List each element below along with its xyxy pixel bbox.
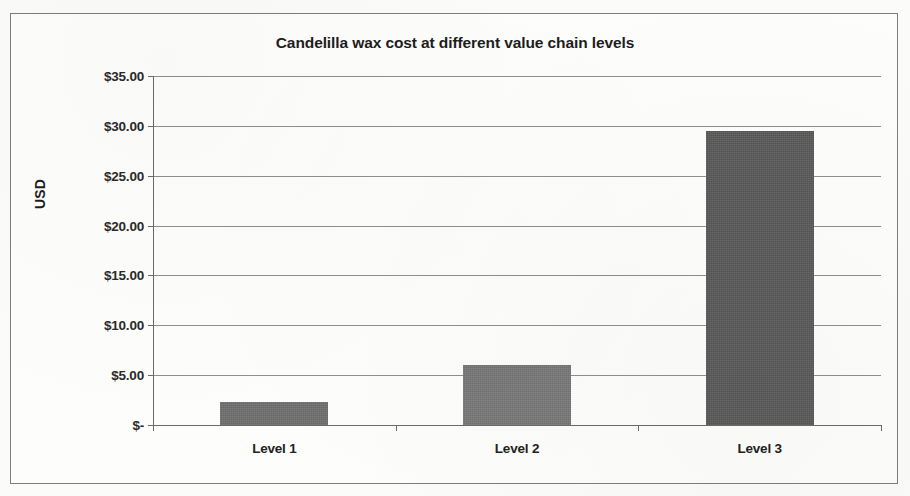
gridline [153,425,881,426]
gridline [153,76,881,77]
y-axis-tick-label: $15.00 [104,268,144,283]
y-axis-line [153,76,154,425]
x-axis-category-label: Level 1 [252,441,296,456]
y-axis-tick-label: $30.00 [104,118,144,133]
bar [220,402,328,425]
y-axis-tick-label: $- [132,418,144,433]
y-axis-tick [148,226,154,227]
y-axis-tick [148,275,154,276]
x-axis-category-label: Level 3 [737,441,781,456]
plot-area: $-$5.00$10.00$15.00$20.00$25.00$30.00$35… [153,76,881,425]
x-axis-category-label: Level 2 [495,441,539,456]
gridline [153,126,881,127]
y-axis-tick [148,325,154,326]
chart-title: Candelilla wax cost at different value c… [11,34,899,52]
y-axis-tick [148,375,154,376]
x-axis-tick [153,425,154,431]
y-axis-title: USD [32,179,48,209]
scanned-chart-page: Candelilla wax cost at different value c… [0,0,910,496]
y-axis-tick [148,176,154,177]
y-axis-tick [148,76,154,77]
x-axis-tick [881,425,882,431]
x-axis-tick [396,425,397,431]
bar [463,365,571,425]
y-axis-tick-label: $20.00 [104,218,144,233]
chart-frame: Candelilla wax cost at different value c… [10,13,898,484]
bar [706,131,814,425]
y-axis-tick-label: $10.00 [104,318,144,333]
y-axis-tick-label: $25.00 [104,168,144,183]
y-axis-tick-label: $5.00 [111,368,144,383]
x-axis-tick [638,425,639,431]
y-axis-tick [148,126,154,127]
y-axis-tick-label: $35.00 [104,69,144,84]
